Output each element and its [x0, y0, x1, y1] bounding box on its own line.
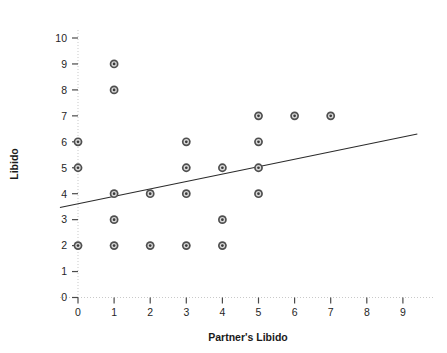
data-point-center — [113, 89, 116, 92]
data-point-center — [113, 192, 116, 195]
data-point-center — [77, 140, 80, 143]
data-point — [146, 189, 155, 198]
y-tick-label: 6 — [61, 136, 67, 148]
data-point — [254, 137, 263, 146]
x-tick-label: 2 — [147, 306, 153, 318]
data-point-center — [149, 192, 152, 195]
data-point-center — [113, 218, 116, 221]
y-tick-label: 4 — [61, 188, 67, 200]
x-tick-label: 8 — [364, 306, 370, 318]
data-point-center — [293, 115, 296, 118]
x-tick-label: 3 — [183, 306, 189, 318]
data-point — [74, 163, 83, 172]
x-tick-label: 0 — [75, 306, 81, 318]
data-point-center — [257, 192, 260, 195]
data-point-center — [113, 244, 116, 247]
data-point — [110, 241, 119, 250]
data-point — [218, 241, 227, 250]
x-tick-label: 9 — [400, 306, 406, 318]
data-point — [74, 137, 83, 146]
data-point — [110, 189, 119, 198]
data-point-center — [221, 218, 224, 221]
data-point — [182, 189, 191, 198]
y-tick-label: 7 — [61, 110, 67, 122]
data-point — [182, 137, 191, 146]
y-tick-label: 10 — [55, 32, 67, 44]
x-tick-label: 5 — [256, 306, 262, 318]
data-point — [254, 189, 263, 198]
data-point-center — [185, 140, 188, 143]
x-tick-label: 6 — [292, 306, 298, 318]
y-tick-label: 8 — [61, 84, 67, 96]
y-axis-title: Libido — [8, 148, 20, 180]
x-tick-label: 1 — [111, 306, 117, 318]
y-tick-label: 9 — [61, 58, 67, 70]
data-point-center — [257, 140, 260, 143]
data-point — [254, 163, 263, 172]
data-point — [110, 215, 119, 224]
data-point — [218, 215, 227, 224]
data-point-center — [221, 244, 224, 247]
data-point-center — [149, 244, 152, 247]
data-point-center — [185, 192, 188, 195]
x-axis-title: Partner's Libido — [208, 331, 288, 343]
data-point — [254, 111, 263, 120]
data-point-center — [113, 63, 116, 66]
data-point — [326, 111, 335, 120]
data-point-center — [77, 244, 80, 247]
data-point-center — [329, 115, 332, 118]
y-tick-label: 2 — [61, 239, 67, 251]
data-point — [110, 86, 119, 95]
data-point — [74, 241, 83, 250]
plot-canvas: 012345678910 0123456789 Partner's Libido… — [0, 0, 447, 353]
data-point — [110, 60, 119, 69]
x-tick-label: 7 — [328, 306, 334, 318]
y-tick-label: 1 — [61, 265, 67, 277]
data-point — [290, 111, 299, 120]
data-point-center — [257, 166, 260, 169]
x-tick-label: 4 — [219, 306, 225, 318]
data-point-center — [257, 115, 260, 118]
y-tick-label: 5 — [61, 162, 67, 174]
y-tick-label: 3 — [61, 213, 67, 225]
data-point-center — [185, 244, 188, 247]
data-point — [182, 241, 191, 250]
data-point — [182, 163, 191, 172]
data-point — [218, 163, 227, 172]
data-point-center — [77, 166, 80, 169]
y-tick-label: 0 — [61, 291, 67, 303]
data-point-center — [185, 166, 188, 169]
scatter-plot-figure: 012345678910 0123456789 Partner's Libido… — [0, 0, 447, 353]
data-point-center — [221, 166, 224, 169]
figure-background — [0, 0, 447, 353]
data-point — [146, 241, 155, 250]
